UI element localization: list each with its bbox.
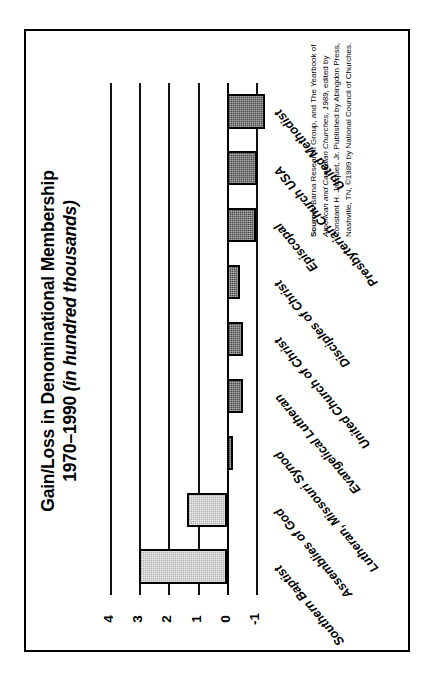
title-years: 1970–1990 <box>60 391 80 481</box>
bar-southern-baptist <box>139 549 227 583</box>
page-title: Gain/Loss in Denominational Membership 1… <box>38 41 82 641</box>
chart-stage: Gain/Loss in Denominational Membership 1… <box>32 41 402 641</box>
bar-presbyterian-church-usa <box>227 151 258 185</box>
source-text-a: Barna Research Group, and The Yearbook o… <box>309 44 318 204</box>
source-note: Source: Barna Research Group, and The Ye… <box>308 41 354 237</box>
bar-lutheran-missouri-synod <box>227 435 233 469</box>
axis-tick-label-4: 4 <box>101 606 116 632</box>
title-line-2: 1970–1990 (in hundred thousands) <box>60 41 82 641</box>
plot-area: 43210-1Southern BaptistAssemblies of God… <box>110 83 256 595</box>
source-lead: Source: <box>309 204 318 236</box>
bar-episcopal <box>227 208 256 242</box>
source-text-b: American and Canadian Churches, 1989 <box>321 92 330 237</box>
axis-tick-label-2: 2 <box>159 606 174 632</box>
gridline-2 <box>168 83 170 595</box>
bar-disciples-of-christ <box>227 265 240 299</box>
title-line-1: Gain/Loss in Denominational Membership <box>38 41 60 641</box>
title-units: (in hundred thousands) <box>60 200 80 391</box>
figure-frame: Gain/Loss in Denominational Membership 1… <box>24 29 410 652</box>
bar-evangelical-lutheran <box>227 378 243 412</box>
axis-tick-label-1: 1 <box>189 606 204 632</box>
axis-tick-label--1: -1 <box>247 606 262 632</box>
axis-tick-label-0: 0 <box>218 606 233 632</box>
gridline-3 <box>139 83 141 595</box>
bar-united-methodist <box>227 94 265 128</box>
gridline-4 <box>110 83 112 595</box>
bar-united-church-of-christ <box>227 321 243 355</box>
bar-assemblies-of-god <box>187 492 226 526</box>
axis-tick-label-3: 3 <box>130 606 145 632</box>
